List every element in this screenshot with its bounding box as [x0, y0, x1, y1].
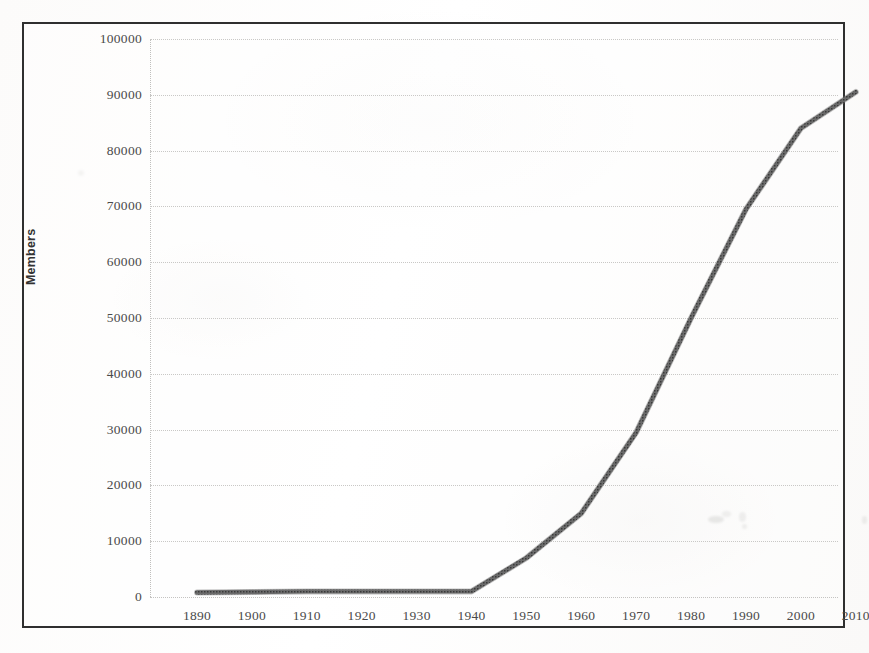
series-line-members	[197, 92, 856, 593]
chart-page: 0100002000030000400005000060000700008000…	[0, 0, 869, 653]
series-line-bleed	[197, 92, 856, 593]
series-layer	[0, 0, 869, 653]
